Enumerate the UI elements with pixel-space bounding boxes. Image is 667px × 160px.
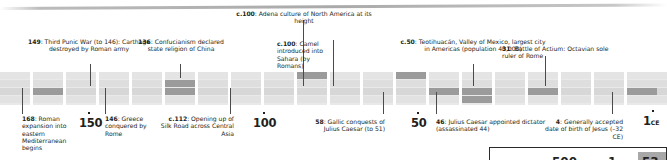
timeline-band-row <box>0 96 667 103</box>
event-label-roman-expansion: 168: Roman expansion into eastern Medite… <box>22 115 84 151</box>
axis-tick-150: 150 <box>79 116 102 130</box>
timeline-highlight-cell <box>165 80 195 87</box>
timeline-column-separator <box>558 72 561 105</box>
timeline-highlight-cell <box>528 88 558 95</box>
axis-tick-150-label: 150 <box>79 116 102 130</box>
event-label-confucianism: 136: Confucianism declared state religio… <box>131 38 231 53</box>
leader-line-roman-expansion <box>22 88 23 114</box>
event-year-teotihuacan: c.50 <box>401 38 415 45</box>
timeline-highlight-cell <box>396 72 426 79</box>
timeline-page: c.100: Adena culture of North America at… <box>0 0 667 160</box>
event-year-greece: 146 <box>105 115 118 122</box>
leader-line-teotihuacan <box>473 64 474 86</box>
leader-line-punic <box>90 64 91 86</box>
leader-line-gallic <box>383 92 384 114</box>
event-text-gallic: : Gallic conquests of Julius Caesar (to … <box>324 118 385 132</box>
tick-dot-100 <box>263 112 265 114</box>
timeline-column-separator <box>591 72 594 105</box>
scale-chip-number: 53 <box>642 155 659 160</box>
timeline-highlight-cell <box>627 88 657 95</box>
timeline-highlight-cell <box>165 88 195 95</box>
scale-start-number: 500 <box>552 155 577 160</box>
event-year-silk-road: c.112 <box>169 115 188 122</box>
event-label-gallic: 58: Gallic conquests of Julius Caesar (t… <box>305 118 385 133</box>
axis-tick-100-label: 100 <box>253 116 276 130</box>
axis-tick-50: 50 <box>411 116 427 130</box>
timeline-column-separator <box>327 72 330 105</box>
timeline-highlight-cell <box>462 88 492 95</box>
leader-line-jesus <box>612 92 613 114</box>
event-label-caesar-dictator: 46: Julius Caesar appointed dictator (as… <box>436 118 548 133</box>
leader-line-greece <box>105 88 106 114</box>
leader-line-confucianism <box>180 64 181 78</box>
timeline-column-separator <box>63 72 66 105</box>
timeline-highlight-cell <box>429 88 459 95</box>
tick-dot-1ce <box>652 110 654 112</box>
event-year-adena: c.100 <box>236 10 255 17</box>
axis-tick-1ce: 1CE <box>643 114 660 128</box>
event-text-caesar-dictator: : Julius Caesar appointed dictator (assa… <box>436 118 545 132</box>
event-text-adena: : Adena culture of North America at its … <box>255 10 372 24</box>
event-year-camel: c.100 <box>277 40 296 47</box>
event-text-actium: : Battle of Actium: Octavian sole ruler … <box>502 45 608 59</box>
axis-tick-100: 100 <box>253 116 276 130</box>
tick-dot-150 <box>88 112 90 114</box>
event-year-confucianism: 136 <box>138 38 151 45</box>
event-label-greece: 146: Greece conquered by Rome <box>105 115 159 137</box>
event-label-camel: c.100: Camel introduced into Sahara (by … <box>277 40 337 69</box>
leader-line-actium <box>545 56 546 86</box>
timeline-highlight-cell <box>462 96 492 103</box>
leader-line-caesar-dictator <box>436 92 437 114</box>
event-label-adena: c.100: Adena culture of North America at… <box>234 10 374 25</box>
event-year-roman-expansion: 168 <box>22 115 35 122</box>
event-year-gallic: 58 <box>315 118 323 125</box>
event-label-silk-road: c.112: Opening up of Silk Road across Ce… <box>156 115 234 137</box>
timeline-column-separator <box>360 72 363 105</box>
axis-tick-1ce-era: CE <box>651 119 660 126</box>
timeline-column-separator <box>96 72 99 105</box>
timeline-column-separator <box>492 72 495 105</box>
timeline-band-row <box>0 88 667 95</box>
timeline-column-separator <box>195 72 198 105</box>
event-year-punic: 149 <box>28 38 41 45</box>
event-text-confucianism: : Confucianism declared state religion o… <box>148 38 224 52</box>
tick-dot-50 <box>417 112 419 114</box>
timeline-highlight-cell <box>33 88 63 95</box>
axis-tick-1ce-label: 1 <box>643 114 651 128</box>
timeline-column-separator <box>129 72 132 105</box>
timeline-column-separator <box>261 72 264 105</box>
scale-chip: 53 <box>638 152 666 160</box>
scale-mid-number: 1 <box>608 155 616 160</box>
leader-line-silk-road <box>230 88 231 114</box>
scale-reference-box: 500 BCE 1 CE 53 <box>489 147 667 160</box>
event-label-jesus: 4: Generally accepted date of birth of J… <box>545 118 623 140</box>
timeline-highlight-cell <box>297 72 327 79</box>
event-label-actium: 31: Battle of Actium: Octavian sole rule… <box>502 45 612 60</box>
axis-tick-50-label: 50 <box>411 116 427 130</box>
